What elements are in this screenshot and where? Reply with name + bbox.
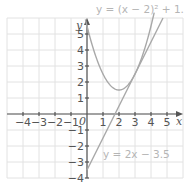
x-axis-label: x bbox=[176, 115, 183, 128]
x-tick-label: −4 bbox=[15, 116, 31, 129]
parabola-curve bbox=[85, 13, 154, 90]
x-tick-label: 3 bbox=[132, 116, 139, 129]
parabola-equation-label: y = (x − 2)² + 1.5 bbox=[96, 3, 184, 15]
line-equation-label: y = 2x − 3.5 bbox=[103, 148, 170, 160]
function-graph: −4−3−2−11234554321−1−2−3−4 y = (x − 2)² … bbox=[0, 0, 184, 191]
x-tick-label: 5 bbox=[164, 116, 171, 129]
y-tick-label: 4 bbox=[77, 44, 84, 57]
y-tick-label: 2 bbox=[77, 76, 84, 89]
origin-label: 0 bbox=[79, 115, 86, 128]
y-tick-label: 1 bbox=[77, 92, 84, 105]
x-tick-label: −3 bbox=[31, 116, 47, 129]
tick-labels: −4−3−2−11234554321−1−2−3−4 bbox=[15, 28, 171, 185]
x-tick-label: 2 bbox=[116, 116, 123, 129]
x-tick-label: 4 bbox=[148, 116, 155, 129]
y-axis-label: y bbox=[75, 19, 83, 32]
y-tick-label: −2 bbox=[68, 140, 84, 153]
x-tick-label: −2 bbox=[47, 116, 63, 129]
y-tick-label: −4 bbox=[68, 172, 84, 185]
y-tick-label: 3 bbox=[77, 60, 84, 73]
x-tick-label: 1 bbox=[100, 116, 107, 129]
y-tick-label: −3 bbox=[68, 156, 84, 169]
